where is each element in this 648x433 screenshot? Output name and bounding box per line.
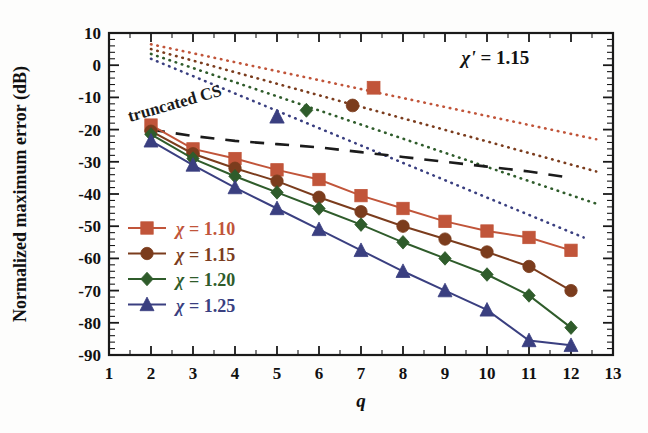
- data-marker-circle: [565, 284, 577, 296]
- x-tick-label: 7: [357, 364, 366, 383]
- x-tick-label: 8: [399, 364, 408, 383]
- x-tick-label: 3: [189, 364, 198, 383]
- data-marker-square: [397, 202, 409, 214]
- x-tick-label: 6: [315, 364, 324, 383]
- legend-label: χ = 1.15: [173, 245, 235, 265]
- x-tick-label: 10: [479, 364, 496, 383]
- normalized-maximum-error-chart: 12345678910111213100-10-20-30-40-50-60-7…: [0, 0, 648, 433]
- legend-label: χ = 1.10: [173, 219, 235, 239]
- y-tick-label: -40: [78, 185, 101, 204]
- data-marker-square: [367, 81, 380, 94]
- y-tick-label: -20: [78, 121, 101, 140]
- y-tick-label: -60: [78, 249, 101, 268]
- data-marker-square: [141, 222, 153, 234]
- y-tick-label: 0: [93, 56, 102, 75]
- data-marker-square: [439, 215, 451, 227]
- legend-label: χ = 1.25: [173, 296, 235, 316]
- x-axis-title: q: [356, 390, 366, 411]
- data-marker-square: [565, 244, 577, 256]
- data-marker-square: [271, 164, 283, 176]
- x-tick-label: 5: [273, 364, 282, 383]
- x-tick-label: 13: [605, 364, 622, 383]
- y-tick-label: 10: [84, 24, 101, 43]
- data-marker-square: [523, 231, 535, 243]
- data-marker-square: [481, 225, 493, 237]
- x-tick-label: 12: [563, 364, 580, 383]
- data-marker-circle: [523, 260, 535, 272]
- data-marker-square: [355, 189, 367, 201]
- data-marker-square: [313, 173, 325, 185]
- x-tick-label: 4: [231, 364, 240, 383]
- chi-prime-annotation: χ' = 1.15: [459, 47, 530, 68]
- y-tick-label: -10: [78, 88, 101, 107]
- data-marker-circle: [346, 99, 359, 112]
- x-tick-label: 1: [105, 364, 114, 383]
- y-tick-label: -50: [78, 217, 101, 236]
- y-tick-label: -70: [78, 282, 101, 301]
- data-marker-circle: [355, 206, 367, 218]
- y-tick-label: -30: [78, 153, 101, 172]
- y-axis-title: Normalized maximum error (dB): [10, 66, 31, 322]
- x-tick-label: 9: [441, 364, 450, 383]
- data-marker-circle: [141, 247, 153, 259]
- data-marker-circle: [439, 233, 451, 245]
- legend-label: χ = 1.20: [173, 270, 235, 290]
- y-tick-label: -80: [78, 314, 101, 333]
- x-tick-label: 2: [147, 364, 156, 383]
- data-marker-circle: [397, 220, 409, 232]
- y-tick-label: -90: [78, 346, 101, 365]
- chart-figure: 12345678910111213100-10-20-30-40-50-60-7…: [0, 0, 648, 433]
- data-marker-circle: [481, 246, 493, 258]
- x-tick-label: 11: [521, 364, 537, 383]
